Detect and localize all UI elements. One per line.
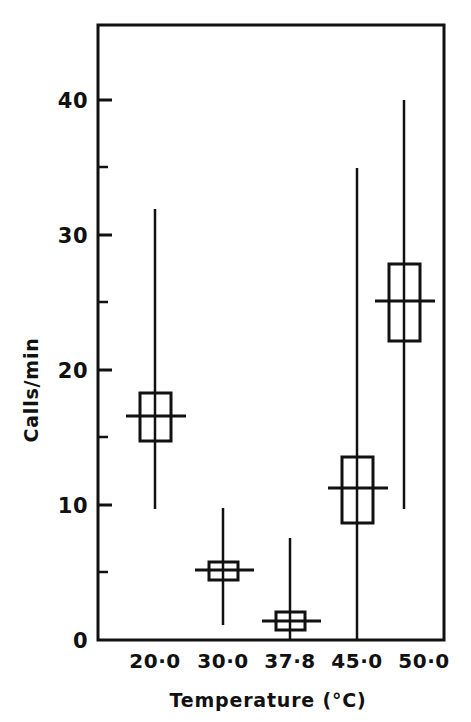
y-tick-label-10: 10 (58, 494, 88, 518)
x-tick-label-20-0: 20·0 (129, 649, 180, 673)
y-tick-label-20: 20 (58, 359, 88, 383)
x-tick-label-50-0: 50·0 (398, 649, 449, 673)
x-tick-label-45-0: 45·0 (331, 649, 382, 673)
x-tick-label-30-0: 30·0 (197, 649, 248, 673)
boxplot-group-20-0 (126, 209, 186, 509)
x-axis-title: Temperature (°C) (170, 689, 367, 711)
y-tick-label-30: 30 (58, 224, 88, 248)
y-tick-label-40: 40 (58, 89, 88, 113)
x-tick-label-37-8: 37·8 (264, 649, 315, 673)
y-tick-label-0: 0 (73, 629, 88, 653)
boxplot-group-45-0 (328, 168, 388, 640)
boxplot-group-50-0 (375, 100, 435, 509)
y-axis-title: Calls/min (20, 337, 42, 442)
chart-figure: 40 30 20 10 0 Calls/min (0, 0, 471, 722)
boxplot-group-37-8 (262, 538, 321, 640)
boxplot-group-30-0 (195, 508, 254, 625)
boxplot-chart: 40 30 20 10 0 Calls/min (0, 0, 471, 722)
